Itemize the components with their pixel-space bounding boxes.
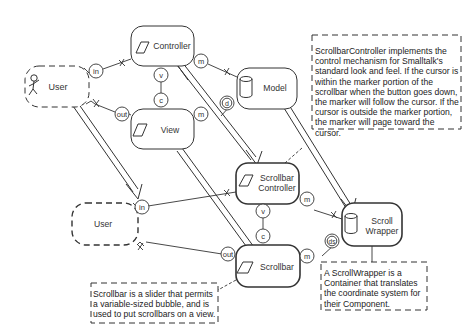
- user-bottom: User: [72, 203, 138, 245]
- port-m-scrollbar-controller: m: [300, 192, 314, 206]
- svg-text:User: User: [48, 82, 67, 92]
- note-scroll-wrapper: A ScrollWrapper is a Container that tran…: [324, 268, 426, 309]
- svg-text:c: c: [159, 96, 163, 105]
- cross-mark: [331, 211, 337, 218]
- svg-text:m: m: [198, 110, 204, 119]
- port-v-scrollbar-controller: v: [256, 204, 270, 218]
- model-component: Model: [237, 68, 297, 109]
- port-c-scrollbar: c: [256, 229, 270, 243]
- scrollbar-component: Scrollbar: [236, 245, 300, 287]
- port-c-view: c: [154, 93, 168, 107]
- port-m-scrollbar: m: [300, 249, 314, 263]
- port-out-bottom: out: [221, 247, 235, 261]
- svg-text:v: v: [159, 71, 163, 80]
- svg-text:m: m: [304, 252, 310, 261]
- svg-text:m: m: [198, 57, 204, 66]
- svg-text:out: out: [117, 110, 128, 119]
- svg-text:Model: Model: [263, 83, 286, 93]
- user-top: User: [25, 66, 89, 107]
- svg-text:d: d: [225, 100, 229, 107]
- controller-component: Controller: [131, 26, 194, 66]
- svg-text:Wrapper: Wrapper: [366, 226, 399, 236]
- svg-text:User: User: [94, 219, 112, 229]
- view-component: View: [131, 109, 194, 149]
- port-ds-scroll-wrapper: ds: [325, 234, 339, 248]
- svg-text:View: View: [161, 125, 180, 135]
- scroll-wrapper-component: Scroll Wrapper: [342, 203, 402, 246]
- svg-text:v: v: [261, 207, 265, 216]
- svg-text:out: out: [223, 250, 234, 259]
- svg-text:in: in: [93, 67, 99, 76]
- svg-text:m: m: [304, 195, 310, 204]
- port-m-controller: m: [194, 54, 208, 68]
- scrollbar-controller-component: Scrollbar Controller: [236, 163, 299, 204]
- svg-text:Scroll: Scroll: [371, 216, 393, 226]
- svg-text:ds: ds: [329, 238, 337, 245]
- port-in-top: in: [89, 64, 103, 78]
- svg-text:Scrollbar: Scrollbar: [260, 173, 294, 183]
- port-m-view: m: [194, 107, 208, 121]
- svg-text:in: in: [139, 203, 145, 212]
- port-d-model: d: [220, 96, 234, 110]
- svg-text:c: c: [261, 232, 265, 241]
- svg-text:Controller: Controller: [153, 41, 190, 51]
- note-scrollbar-controller: ScrollbarController implements the contr…: [315, 46, 461, 138]
- port-v-controller: v: [154, 68, 168, 82]
- note-scrollbar: Scrollbar is a slider that permits a var…: [93, 289, 216, 320]
- port-out-top: out: [115, 107, 129, 121]
- svg-text:Scrollbar: Scrollbar: [260, 262, 294, 272]
- port-in-bottom: in: [135, 200, 149, 214]
- cross-mark: [224, 189, 230, 196]
- svg-text:Controller: Controller: [258, 183, 295, 193]
